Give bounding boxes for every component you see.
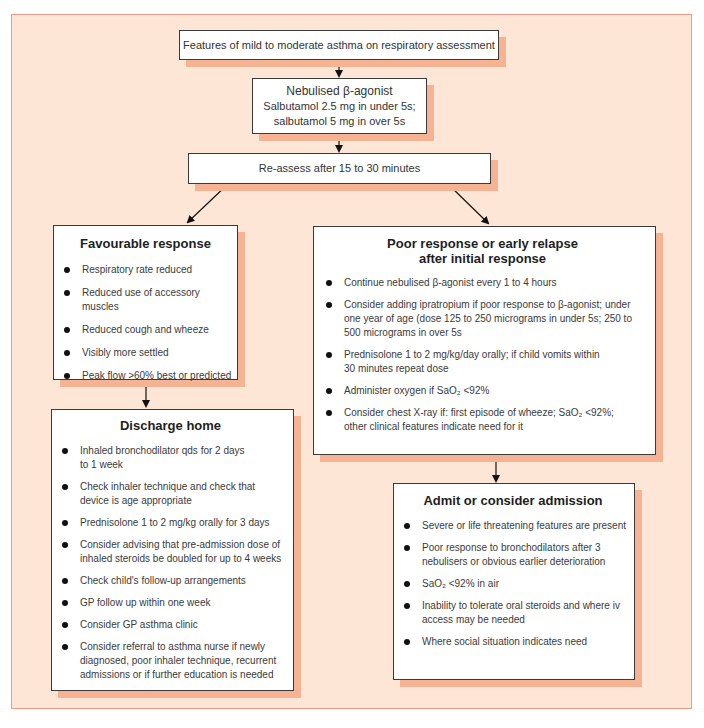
discharge-home-box: Discharge home Inhaled bronchodilator qd…	[51, 409, 294, 691]
admit-box: Admit or consider admission Severe or li…	[393, 483, 635, 680]
list-item: Inhaled bronchodilator qds for 2 days to…	[56, 444, 285, 472]
discharge-home-title: Discharge home	[56, 418, 285, 433]
admit-title: Admit or consider admission	[398, 493, 628, 508]
treatment-title: Nebulised β-agonist	[286, 84, 392, 99]
treatment-box: Nebulised β-agonist Salbutamol 2.5 mg in…	[252, 78, 427, 134]
treatment-dose-over5: salbutamol 5 mg in over 5s	[274, 114, 405, 129]
start-text: Features of mild to moderate asthma on r…	[183, 38, 495, 53]
favourable-response-list: Respiratory rate reduced Reduced use of …	[58, 263, 233, 383]
admit-list: Severe or life threatening features are …	[398, 519, 628, 649]
list-item: Visibly more settled	[58, 346, 233, 360]
poor-response-list: Continue nebulised β-agonist every 1 to …	[320, 276, 645, 434]
list-item: Prednisolone 1 to 2 mg/kg/day orally; if…	[320, 348, 645, 376]
list-item: Administer oxygen if SaO₂ <92%	[320, 384, 645, 398]
favourable-response-title: Favourable response	[58, 236, 233, 251]
list-item: Respiratory rate reduced	[58, 263, 233, 277]
list-item: Check inhaler technique and check that d…	[56, 480, 285, 508]
list-item: Peak flow >60% best or predicted	[58, 369, 233, 383]
list-item: Reduced cough and wheeze	[58, 323, 233, 337]
start-box: Features of mild to moderate asthma on r…	[179, 30, 499, 60]
poor-response-title-line1: Poor response or early relapse	[320, 236, 645, 251]
list-item: Continue nebulised β-agonist every 1 to …	[320, 276, 645, 290]
reassess-box: Re-assess after 15 to 30 minutes	[188, 153, 491, 184]
list-item: Inability to tolerate oral steroids and …	[398, 599, 628, 627]
list-item: Consider GP asthma clinic	[56, 618, 285, 632]
list-item: Consider referral to asthma nurse if new…	[56, 640, 285, 682]
list-item: Prednisolone 1 to 2 mg/kg orally for 3 d…	[56, 516, 285, 530]
list-item: Consider chest X-ray if: first episode o…	[320, 406, 645, 434]
list-item: Poor response to bronchodilators after 3…	[398, 541, 628, 569]
list-item: Reduced use of accessory muscles	[58, 286, 233, 314]
treatment-dose-under5: Salbutamol 2.5 mg in under 5s;	[263, 99, 415, 114]
list-item: SaO₂ <92% in air	[398, 577, 628, 591]
list-item: Consider advising that pre-admission dos…	[56, 538, 285, 566]
list-item: Check child's follow-up arrangements	[56, 574, 285, 588]
favourable-response-box: Favourable response Respiratory rate red…	[53, 225, 238, 380]
poor-response-title-line2: after initial response	[320, 251, 645, 266]
list-item: Consider adding ipratropium if poor resp…	[320, 298, 645, 340]
list-item: Where social situation indicates need	[398, 635, 628, 649]
poor-response-box: Poor response or early relapse after ini…	[313, 226, 656, 455]
reassess-text: Re-assess after 15 to 30 minutes	[259, 161, 420, 176]
list-item: GP follow up within one week	[56, 596, 285, 610]
discharge-home-list: Inhaled bronchodilator qds for 2 days to…	[56, 444, 285, 682]
list-item: Severe or life threatening features are …	[398, 519, 628, 533]
